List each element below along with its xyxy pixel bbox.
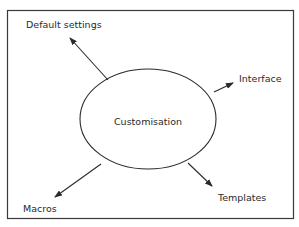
node-label-default-settings: Default settings bbox=[26, 19, 102, 30]
arrow-default-settings bbox=[70, 38, 108, 80]
diagram-frame bbox=[8, 11, 294, 219]
arrow-interface bbox=[214, 83, 233, 92]
arrow-macros bbox=[55, 164, 101, 197]
node-label-templates: Templates bbox=[217, 192, 266, 203]
center-label: Customisation bbox=[114, 116, 182, 127]
node-label-macros: Macros bbox=[23, 203, 57, 214]
customisation-diagram: Customisation Default settings Interface… bbox=[0, 0, 299, 227]
arrow-templates bbox=[188, 163, 212, 186]
node-label-interface: Interface bbox=[239, 73, 282, 84]
